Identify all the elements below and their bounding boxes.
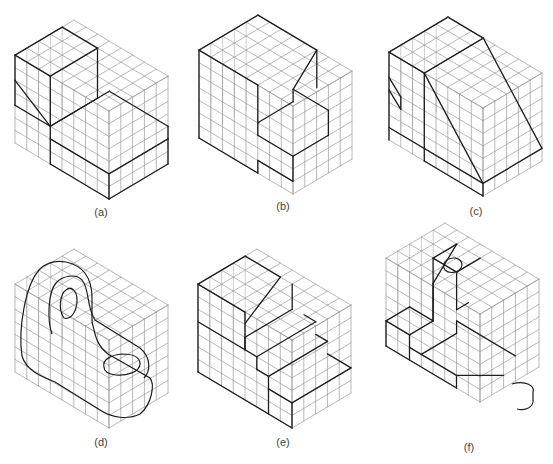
curved-outline: [512, 383, 533, 410]
panel-c: [389, 17, 542, 196]
panel-e: [198, 249, 351, 428]
isometric-drawings-canvas: [0, 0, 553, 464]
panel-b: [199, 15, 352, 194]
panel-a: [15, 20, 168, 199]
isometric-exercise-figure: (a) (b) (c) (d) (e) (f): [0, 0, 553, 464]
panel-label-a: (a): [94, 206, 107, 218]
panel-label-f: (f): [464, 441, 474, 453]
panel-label-e: (e): [276, 436, 289, 448]
curved-outline: [60, 288, 77, 318]
panel-label-d: (d): [94, 436, 107, 448]
panel-d: [15, 249, 168, 428]
panel-label-c: (c): [470, 205, 483, 217]
panel-f: [386, 223, 539, 410]
panel-label-b: (b): [276, 200, 289, 212]
